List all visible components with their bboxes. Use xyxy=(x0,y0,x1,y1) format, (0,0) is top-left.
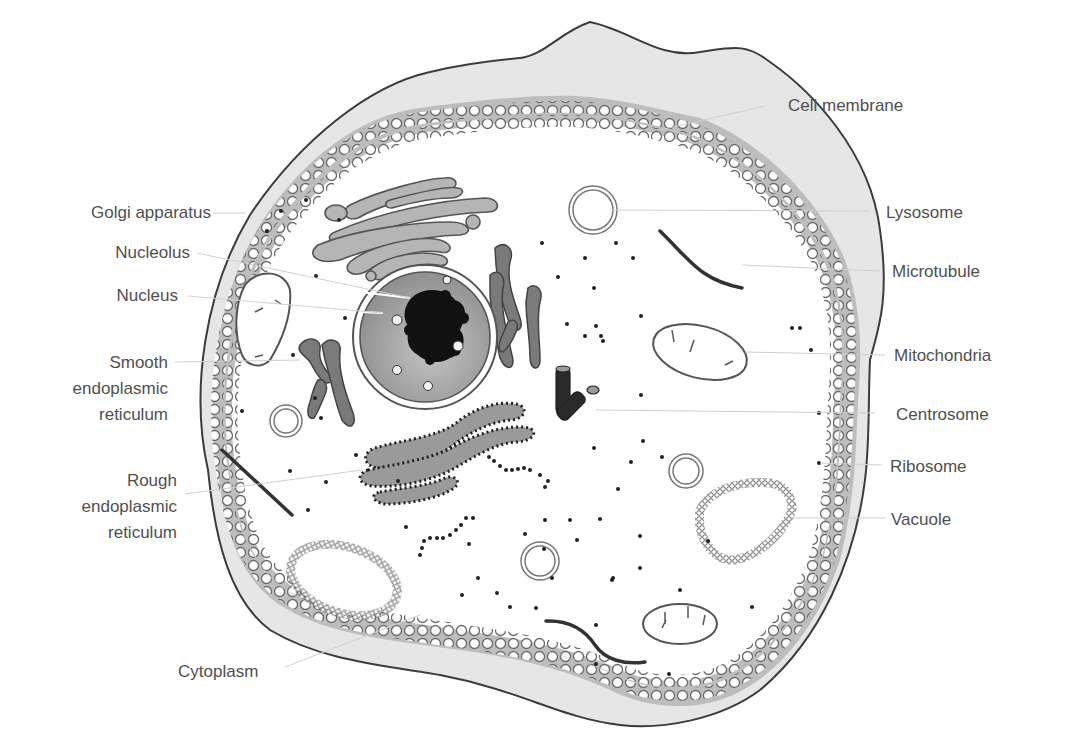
label-lysosome: Lysosome xyxy=(886,202,963,224)
label-rough-er: Rough endoplasmic reticulum xyxy=(82,468,177,546)
label-smooth-er-line1: Smooth xyxy=(73,350,168,376)
label-centrosome: Centrosome xyxy=(896,404,989,426)
label-smooth-er-line3: reticulum xyxy=(73,402,168,428)
label-nucleolus: Nucleolus xyxy=(115,242,190,264)
label-ribosome: Ribosome xyxy=(890,456,967,478)
label-golgi-apparatus: Golgi apparatus xyxy=(91,202,211,224)
label-nucleus: Nucleus xyxy=(117,285,178,307)
label-vacuole: Vacuole xyxy=(891,509,951,531)
label-cell-membrane: Cell membrane xyxy=(788,95,903,117)
cell-membrane xyxy=(201,22,884,726)
label-smooth-er-line2: endoplasmic xyxy=(73,376,168,402)
label-mitochondria: Mitochondria xyxy=(894,345,991,367)
nucleus xyxy=(353,265,497,409)
label-rough-er-line2: endoplasmic xyxy=(82,494,177,520)
label-microtubule: Microtubule xyxy=(892,261,980,283)
label-cytoplasm: Cytoplasm xyxy=(178,661,258,683)
label-rough-er-line1: Rough xyxy=(82,468,177,494)
label-rough-er-line3: reticulum xyxy=(82,520,177,546)
label-smooth-er: Smooth endoplasmic reticulum xyxy=(73,350,168,428)
